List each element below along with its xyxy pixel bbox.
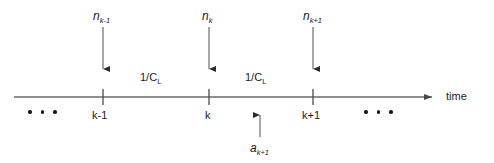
interval-label-left: 1/CL — [140, 72, 161, 83]
ellipsis-left — [28, 110, 57, 114]
arrival-label-n-k: nk — [202, 10, 212, 22]
timeline-diagram: nk-1 nk nk+1 1/CL 1/CL k-1 k k+1 ak+1 ti… — [0, 0, 494, 163]
arrival-label-n-k-plus-1: nk+1 — [303, 10, 322, 22]
ellipsis-dot — [389, 110, 393, 114]
departure-symbol: a — [250, 141, 257, 155]
tick-label-k: k — [205, 110, 211, 121]
time-axis-label: time — [446, 91, 467, 102]
ellipsis-right — [364, 110, 393, 114]
interval-right-text: 1/C — [245, 71, 262, 83]
ellipsis-dot — [364, 110, 368, 114]
ellipsis-dot — [41, 110, 45, 114]
interval-right-subscript: L — [262, 77, 266, 86]
arrival-label-n-k-minus-1: nk-1 — [93, 10, 110, 22]
interval-left-text: 1/C — [140, 71, 157, 83]
tick-label-k-minus-1: k-1 — [92, 110, 107, 121]
departure-label-a-k-plus-1: ak+1 — [250, 142, 269, 154]
ellipsis-dot — [28, 110, 32, 114]
arrival-subscript-n-k: k — [209, 16, 213, 25]
interval-left-subscript: L — [157, 77, 161, 86]
ellipsis-dot — [53, 110, 57, 114]
arrival-symbol-n-k-minus-1: n — [93, 9, 100, 23]
arrival-symbol-n-k-plus-1: n — [303, 9, 310, 23]
ellipsis-dot — [377, 110, 381, 114]
arrival-symbol-n-k: n — [202, 9, 209, 23]
tick-label-k-plus-1: k+1 — [302, 110, 320, 121]
interval-label-right: 1/CL — [245, 72, 266, 83]
arrival-subscript-n-k-plus-1: k+1 — [310, 16, 322, 25]
departure-subscript: k+1 — [257, 148, 269, 157]
arrival-subscript-n-k-minus-1: k-1 — [100, 16, 110, 25]
